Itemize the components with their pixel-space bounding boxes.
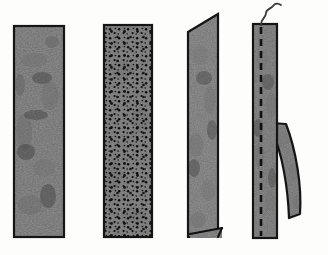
figure-container: Four textile specimen strips <box>0 0 328 255</box>
panel-b-perforated-fabric-strip <box>104 25 152 237</box>
panel-c-slanted-fabric-strip <box>188 14 222 238</box>
panel-d-stitched-fabric-strip <box>253 4 301 238</box>
specimen-figure <box>0 0 328 255</box>
panel-b-perforations-coarse <box>104 25 152 237</box>
panel-a-plain-fabric-strip <box>14 26 64 237</box>
loose-thread <box>261 4 281 25</box>
